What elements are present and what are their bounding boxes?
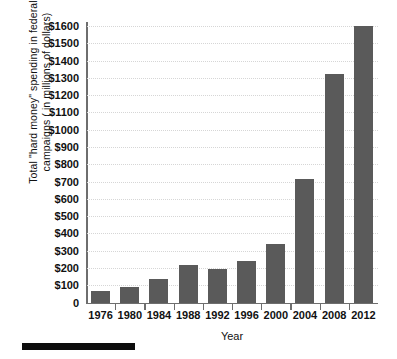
x-tick-label-2012: 2012 — [343, 310, 383, 321]
bar-slot-1996 — [232, 27, 261, 303]
y-tick-label-100: $100 — [27, 280, 79, 291]
bar-1980[interactable] — [120, 287, 139, 303]
y-tick-label-1200: $1200 — [27, 90, 79, 101]
y-tick-label-1300: $1300 — [27, 73, 79, 84]
y-tick-label-0: 0 — [27, 298, 79, 309]
y-tick-label-300: $300 — [27, 246, 79, 257]
bar-slot-2004 — [290, 27, 319, 303]
y-tick-label-800: $800 — [27, 159, 79, 170]
x-axis-title: Year — [86, 330, 378, 342]
y-tick-label-500: $500 — [27, 211, 79, 222]
redaction-bar — [22, 343, 135, 350]
bar-slot-2000 — [261, 27, 290, 303]
bar-2012[interactable] — [354, 26, 373, 303]
y-tick-label-1600: $1600 — [27, 21, 79, 32]
bar-1992[interactable] — [208, 269, 227, 302]
y-tick-label-600: $600 — [27, 194, 79, 205]
y-tick-label-400: $400 — [27, 228, 79, 239]
bar-slot-1980 — [115, 27, 144, 303]
plot-area — [86, 26, 378, 304]
y-tick-label-1000: $1000 — [27, 125, 79, 136]
y-tick-label-200: $200 — [27, 263, 79, 274]
bar-slot-1976 — [86, 27, 115, 303]
y-tick-label-900: $900 — [27, 142, 79, 153]
y-tick-label-1400: $1400 — [27, 56, 79, 67]
bar-slot-1988 — [174, 27, 203, 303]
bar-2008[interactable] — [325, 74, 344, 302]
bar-1984[interactable] — [149, 279, 168, 303]
bar-1988[interactable] — [179, 265, 198, 302]
bar-1996[interactable] — [237, 261, 256, 302]
bar-chart-figure: Total "hard money" spending in federal c… — [0, 0, 397, 359]
bar-slot-2012 — [349, 27, 378, 303]
bar-2004[interactable] — [295, 179, 314, 303]
bar-slot-2008 — [320, 27, 349, 303]
y-tick-label-700: $700 — [27, 177, 79, 188]
y-tick-label-1100: $1100 — [27, 107, 79, 118]
bar-2000[interactable] — [266, 244, 285, 303]
bar-slot-1992 — [203, 27, 232, 303]
bar-1976[interactable] — [91, 291, 110, 303]
y-tick-label-1500: $1500 — [27, 38, 79, 49]
bar-slot-1984 — [144, 27, 173, 303]
